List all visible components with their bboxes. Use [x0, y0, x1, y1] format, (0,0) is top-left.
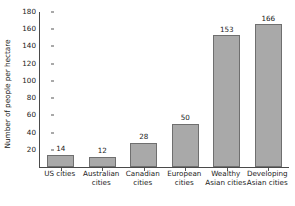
x-axis-category-labels: US citiesAustraliancitiesCanadiancitiesE…	[39, 170, 289, 204]
bar	[172, 124, 199, 167]
bar-value-label: 166	[255, 15, 282, 23]
bar-value-label: 12	[89, 147, 116, 155]
bar	[89, 157, 116, 167]
y-axis-tick-label: 60	[14, 112, 36, 119]
x-axis-line	[39, 167, 289, 168]
y-axis-tick-label: 160	[14, 26, 36, 33]
y-axis-tick-label: 120	[14, 60, 36, 67]
y-axis-tick-label: 80	[14, 95, 36, 102]
x-axis-category-label: WealthyAsian cities	[203, 170, 249, 187]
bar-group: 166	[255, 12, 282, 167]
y-axis-tick-label: 20	[14, 146, 36, 153]
y-axis-tick-labels: 18016014012010080604020	[14, 10, 36, 168]
bar-group: 14	[47, 12, 74, 167]
bars-layer: 14122850153166	[40, 12, 289, 167]
y-axis-tick-label: 180	[14, 8, 36, 15]
bar	[255, 24, 282, 167]
x-axis-category-label: Canadiancities	[120, 170, 166, 187]
x-axis-category-label-line: cities	[162, 179, 208, 188]
x-axis-category-label-line: US cities	[37, 170, 83, 179]
x-axis-category-label-line: Asian cities	[203, 179, 249, 188]
bar	[130, 143, 157, 167]
bar-group: 50	[172, 12, 199, 167]
bar-value-label: 28	[130, 133, 157, 141]
x-axis-category-label-line: cities	[120, 179, 166, 188]
y-axis-tick-label: 40	[14, 129, 36, 136]
y-axis-tick-label: 140	[14, 43, 36, 50]
x-axis-category-label-line: cities	[79, 179, 125, 188]
x-axis-category-label: DevelopingAsian cities	[245, 170, 291, 187]
bar-value-label: 153	[213, 26, 240, 34]
bar	[47, 155, 74, 167]
x-axis-category-label-line: Asian cities	[245, 179, 291, 188]
x-axis-category-label: Australiancities	[79, 170, 125, 187]
bar-group: 12	[89, 12, 116, 167]
y-axis-tick-label: 100	[14, 77, 36, 84]
bar	[213, 35, 240, 167]
plot-area: 14122850153166	[39, 12, 289, 168]
bar-value-label: 50	[172, 114, 199, 122]
x-axis-category-label: Europeancities	[162, 170, 208, 187]
bar-group: 28	[130, 12, 157, 167]
bar-group: 153	[213, 12, 240, 167]
y-axis-title: Number of people per hectare	[2, 14, 14, 174]
bar-value-label: 14	[47, 145, 74, 153]
x-axis-category-label: US cities	[37, 170, 83, 179]
bar-chart: Number of people per hectare 18016014012…	[0, 0, 295, 206]
